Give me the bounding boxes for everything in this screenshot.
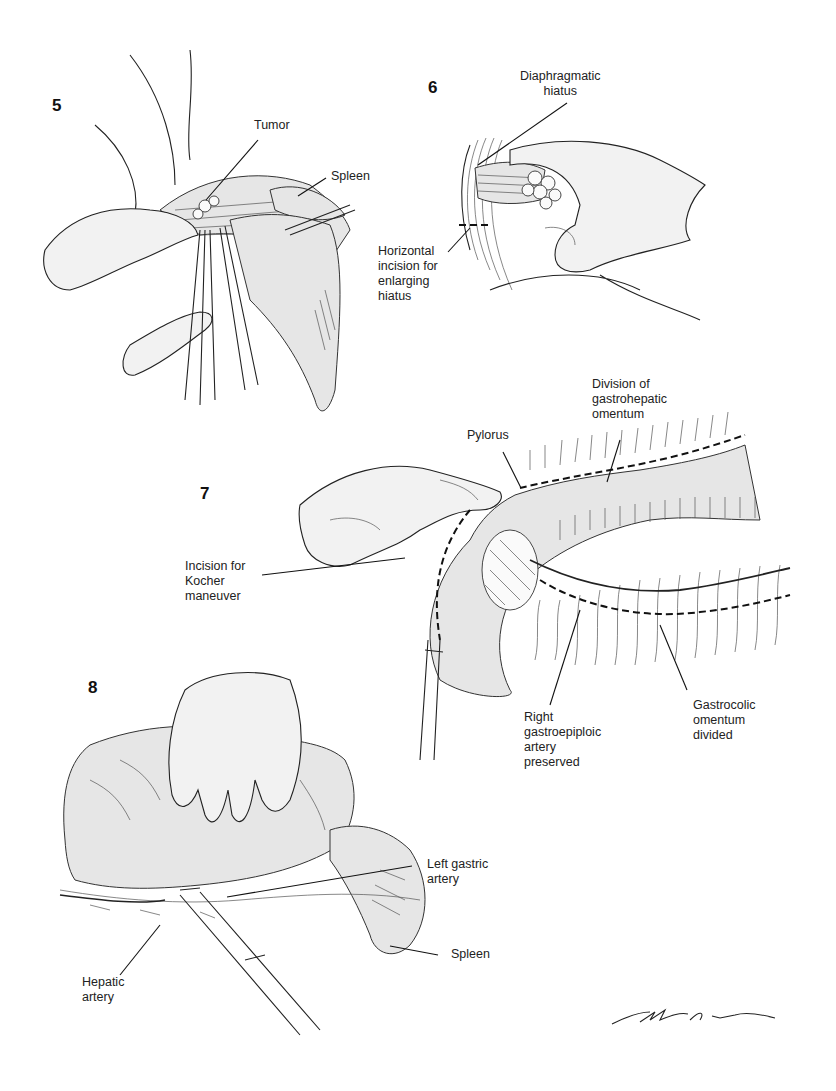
label-gastrocolic-omentum: Gastrocolic omentum divided	[693, 698, 756, 743]
pylorus-leader-line	[503, 452, 521, 488]
figure-number-5: 5	[52, 96, 61, 116]
hepatic-artery-leader-line	[120, 925, 160, 975]
label-horizontal-incision: Horizontal incision for enlarging hiatus	[378, 244, 438, 304]
label-tumor: Tumor	[254, 118, 290, 133]
horizontal-incision-leader-line	[448, 228, 470, 252]
label-right-gastroepiploic-artery: Right gastroepiploic artery preserved	[524, 710, 601, 770]
label-division-gastrohepatic-omentum: Division of gastrohepatic omentum	[592, 377, 667, 422]
figure-5-drawing	[44, 50, 355, 411]
label-hepatic-artery: Hepatic artery	[82, 975, 124, 1005]
label-kocher-incision: Incision for Kocher maneuver	[185, 559, 245, 604]
figure-number-8: 8	[88, 678, 97, 698]
label-diaphragmatic-hiatus: Diaphragmatic hiatus	[520, 69, 601, 99]
gastrocolic-leader-line	[660, 625, 687, 690]
label-left-gastric-artery: Left gastric artery	[427, 857, 488, 887]
figure-6-drawing	[448, 103, 705, 320]
right-gastroepiploic-leader-line	[550, 610, 580, 705]
figure-number-7: 7	[200, 484, 209, 504]
label-pylorus: Pylorus	[467, 428, 509, 443]
label-spleen-fig5: Spleen	[331, 169, 370, 184]
artist-signature	[612, 1010, 775, 1024]
surgical-illustration-canvas	[0, 0, 836, 1091]
tumor-mass-fig6	[522, 171, 561, 209]
figure-number-6: 6	[428, 78, 437, 98]
label-spleen-fig8: Spleen	[451, 947, 490, 962]
